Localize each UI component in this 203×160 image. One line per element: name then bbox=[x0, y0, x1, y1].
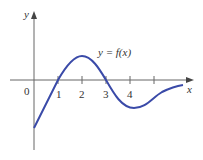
tick-label-4: 4 bbox=[127, 88, 133, 100]
tick-label-2: 2 bbox=[79, 88, 85, 100]
origin-label: 0 bbox=[24, 85, 30, 97]
tick-label-3: 3 bbox=[103, 88, 109, 100]
x-axis-label: x bbox=[186, 83, 192, 95]
y-axis-label: y bbox=[23, 8, 29, 20]
y-axis-arrow-icon bbox=[31, 11, 37, 19]
curve-label: y = f(x) bbox=[97, 46, 131, 59]
function-graph: y x 0 1 2 3 4 y = f(x) bbox=[0, 0, 203, 160]
tick-label-1: 1 bbox=[56, 88, 62, 100]
